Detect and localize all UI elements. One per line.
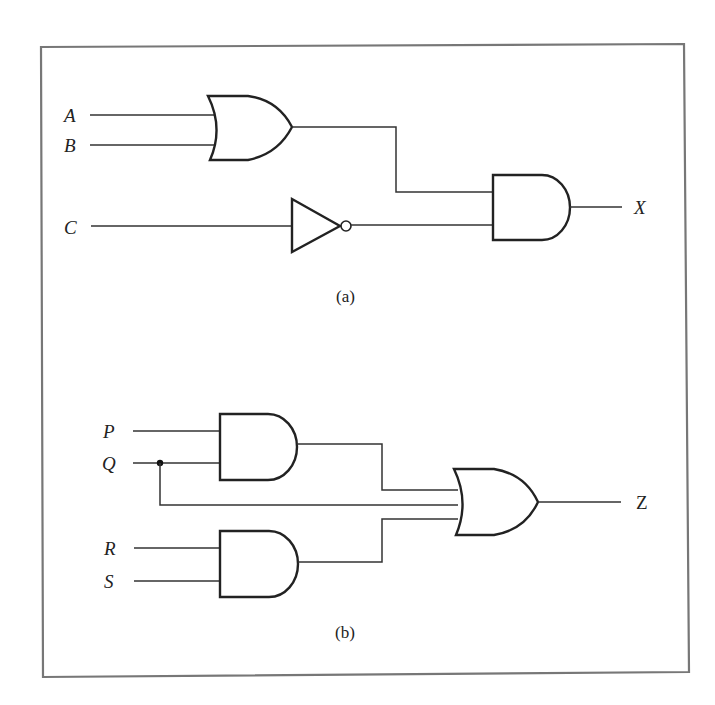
input-label-c: C: [64, 217, 77, 238]
input-label-p: P: [102, 421, 115, 442]
and-gate-1-icon: [220, 414, 297, 480]
caption-b: (b): [335, 623, 355, 642]
output-label-x: X: [633, 197, 647, 218]
and-gate-icon: [493, 175, 570, 240]
input-label-r: R: [103, 538, 116, 559]
input-label-q: Q: [102, 453, 116, 474]
circuit-b: P Q R S Z (b): [102, 414, 648, 642]
logic-circuit-figure: A B C X (a) P Q R S: [0, 0, 715, 705]
circuit-a: A B C X (a): [62, 96, 647, 306]
and-gate-2-icon: [220, 531, 298, 597]
input-label-b: B: [64, 135, 76, 156]
caption-a: (a): [336, 287, 355, 306]
or-gate-3-input-icon: [454, 469, 538, 535]
input-label-a: A: [62, 105, 76, 126]
wire-and1-to-or: [297, 444, 458, 490]
or-gate-icon: [208, 96, 292, 160]
wire-or-to-and: [292, 127, 493, 192]
output-label-z: Z: [636, 492, 648, 513]
not-gate-icon: [292, 199, 340, 252]
inversion-bubble-icon: [341, 221, 351, 231]
figure-frame: [41, 44, 689, 677]
input-label-s: S: [104, 571, 114, 592]
wire-q-to-or: [160, 463, 458, 505]
wire-and2-to-or: [298, 519, 458, 562]
